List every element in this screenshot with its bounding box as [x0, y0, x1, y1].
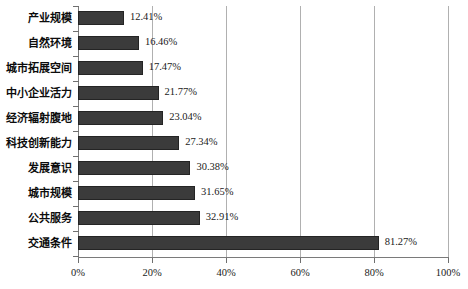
- y-axis-tick: [73, 106, 79, 107]
- bar-value-label: 32.91%: [206, 209, 238, 224]
- bar-row: 31.65%: [78, 181, 448, 206]
- bar-value-label: 30.38%: [196, 159, 228, 174]
- x-axis-tick: [374, 258, 375, 263]
- bar-row: 27.34%: [78, 131, 448, 156]
- y-axis-tick: [73, 256, 79, 257]
- bar-value-label: 17.47%: [149, 59, 181, 74]
- x-axis-tick-label: 100%: [436, 266, 461, 280]
- x-axis-tick-label: 60%: [290, 266, 309, 280]
- category-label: 公共服务: [0, 210, 72, 226]
- x-axis-tick-label: 40%: [216, 266, 235, 280]
- x-axis-tick-label: 80%: [364, 266, 383, 280]
- category-label: 科技创新能力: [0, 135, 72, 151]
- y-axis-tick: [73, 231, 79, 232]
- bar-row: 23.04%: [78, 106, 448, 131]
- category-label: 产业规模: [0, 10, 72, 26]
- x-axis-line: [78, 257, 449, 258]
- y-axis-tick: [73, 206, 79, 207]
- bar-row: 16.46%: [78, 31, 448, 56]
- bar-value-label: 31.65%: [201, 184, 233, 199]
- bar-chart: 12.41%16.46%17.47%21.77%23.04%27.34%30.3…: [0, 0, 468, 289]
- category-label: 发展意识: [0, 160, 72, 176]
- x-axis-tick: [448, 258, 449, 263]
- bar-row: 32.91%: [78, 206, 448, 231]
- category-label: 城市规模: [0, 185, 72, 201]
- x-axis-tick: [226, 258, 227, 263]
- bar-row: 21.77%: [78, 81, 448, 106]
- category-label: 交通条件: [0, 235, 72, 251]
- x-axis-tick: [78, 258, 79, 263]
- bar-row: 12.41%: [78, 6, 448, 31]
- bar-value-label: 16.46%: [145, 34, 177, 49]
- category-label: 自然环境: [0, 35, 72, 51]
- y-axis-tick: [73, 131, 79, 132]
- category-label: 经济辐射腹地: [0, 110, 72, 126]
- y-axis-tick: [73, 6, 79, 7]
- y-axis-tick: [73, 181, 79, 182]
- bar-row: 17.47%: [78, 56, 448, 81]
- x-axis-tick: [300, 258, 301, 263]
- bar: [78, 136, 179, 150]
- bar: [78, 11, 124, 25]
- bar: [78, 61, 143, 75]
- bar-value-label: 12.41%: [130, 9, 162, 24]
- bar: [78, 36, 139, 50]
- y-axis-tick: [73, 156, 79, 157]
- x-axis-tick-label: 0%: [71, 266, 85, 280]
- bar-value-label: 27.34%: [185, 134, 217, 149]
- bar-value-label: 81.27%: [385, 234, 417, 249]
- bar: [78, 236, 379, 250]
- bar: [78, 211, 200, 225]
- bar: [78, 86, 159, 100]
- y-axis-tick: [73, 31, 79, 32]
- bar-value-label: 23.04%: [169, 109, 201, 124]
- bar-row: 81.27%: [78, 231, 448, 256]
- y-axis-tick: [73, 81, 79, 82]
- gridline-100: [448, 6, 449, 258]
- y-axis-tick: [73, 56, 79, 57]
- bar: [78, 161, 190, 175]
- x-axis-tick: [152, 258, 153, 263]
- x-axis-tick-label: 20%: [142, 266, 161, 280]
- bar: [78, 111, 163, 125]
- category-label: 中小企业活力: [0, 85, 72, 101]
- bar: [78, 186, 195, 200]
- bar-row: 30.38%: [78, 156, 448, 181]
- category-label: 城市拓展空间: [0, 60, 72, 76]
- bar-value-label: 21.77%: [165, 84, 197, 99]
